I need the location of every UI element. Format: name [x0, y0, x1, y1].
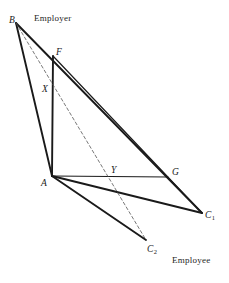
- edge-f-a: [52, 56, 53, 176]
- vertex-label-text: X: [42, 84, 48, 94]
- vertex-label-g: G: [172, 168, 179, 178]
- vertex-label-text: G: [172, 167, 179, 177]
- vertex-label-c1: C1: [205, 211, 215, 221]
- geometry-diagram: [0, 0, 229, 283]
- vertex-label-text: Y: [111, 165, 116, 175]
- vertex-label-subscript: 2: [153, 248, 157, 255]
- vertex-label-text: B: [9, 15, 15, 25]
- vertex-label-b: B: [9, 16, 15, 26]
- vertex-label-x: X: [42, 85, 48, 95]
- vertex-label-text: A: [41, 178, 47, 188]
- vertex-label-y: Y: [111, 166, 116, 176]
- vertex-label-text: F: [56, 47, 62, 57]
- annotation-employee: Employee: [172, 256, 211, 265]
- vertex-label-c2: C2: [147, 245, 157, 255]
- annotation-employer: Employer: [34, 14, 72, 23]
- vertex-label-f: F: [56, 48, 62, 58]
- vertex-label-subscript: 1: [211, 214, 215, 221]
- vertex-label-a: A: [41, 179, 47, 189]
